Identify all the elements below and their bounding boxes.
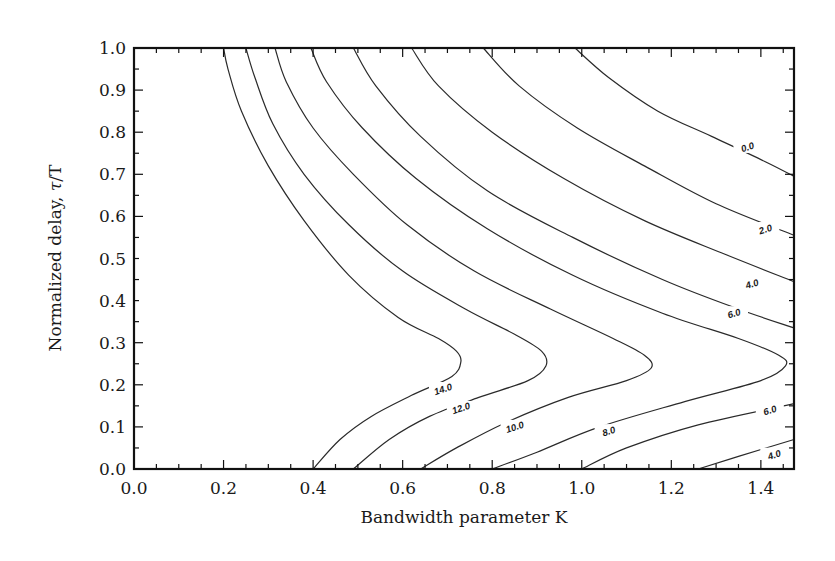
x-tick-label: 1.0 xyxy=(568,478,595,498)
y-tick-label: 0.5 xyxy=(99,249,126,269)
contour-line-14.0 xyxy=(224,48,461,469)
y-axis-title: Normalized delay, τ/T xyxy=(45,164,65,351)
contour-line-8.0 xyxy=(311,48,787,469)
y-tick-label: 0.4 xyxy=(99,291,126,311)
y-tick-label: 0.0 xyxy=(99,459,126,479)
x-tick-label: 1.4 xyxy=(747,478,774,498)
y-tick-label: 0.7 xyxy=(99,164,126,184)
y-tick-label: 0.3 xyxy=(99,333,126,353)
y-tick-label: 0.1 xyxy=(99,417,126,437)
y-tick-label: 0.2 xyxy=(99,375,126,395)
x-tick-label: 1.2 xyxy=(658,478,685,498)
x-tick-label: 0.4 xyxy=(300,478,327,498)
contour-line-6.0 xyxy=(353,48,794,328)
y-tick-labels: 0.00.10.20.30.40.50.60.70.80.91.0 xyxy=(99,38,126,479)
x-axis-title: Bandwidth parameter K xyxy=(360,507,567,527)
x-tick-label: 0.6 xyxy=(389,478,416,498)
y-tick-label: 0.9 xyxy=(99,80,126,100)
y-tick-label: 0.8 xyxy=(99,122,126,142)
contour-lines xyxy=(224,48,794,469)
x-tick-label: 0.8 xyxy=(479,478,506,498)
contour-chart: 14.012.010.08.06.06.04.04.02.00.0 0.00.2… xyxy=(0,0,835,561)
y-tick-label: 0.6 xyxy=(99,206,126,226)
x-tick-label: 0.0 xyxy=(120,478,147,498)
contour-line-0.0 xyxy=(575,48,794,176)
y-tick-label: 1.0 xyxy=(99,38,126,58)
contour-line-4.0 xyxy=(412,48,794,282)
x-tick-label: 0.2 xyxy=(210,478,237,498)
x-tick-labels: 0.00.20.40.60.81.01.21.4 xyxy=(120,478,774,498)
